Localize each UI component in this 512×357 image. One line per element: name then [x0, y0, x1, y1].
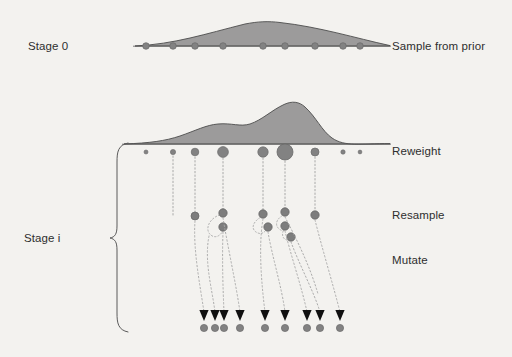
particle	[191, 148, 199, 156]
particle	[277, 144, 293, 160]
particle	[220, 324, 227, 331]
particle	[218, 147, 229, 158]
particle	[200, 324, 207, 331]
posterior-density-curve	[122, 102, 391, 144]
particle	[258, 147, 268, 157]
particle	[261, 324, 268, 331]
particle	[192, 43, 199, 50]
particle	[316, 324, 323, 331]
arrowhead-icon	[219, 310, 228, 321]
particle	[303, 324, 310, 331]
particle	[219, 223, 227, 231]
stage-0-label: Stage 0	[28, 40, 68, 52]
particle	[236, 324, 243, 331]
arrowhead-icon	[280, 310, 289, 321]
arrowhead-icon	[302, 310, 311, 321]
reweight-label: Reweight	[392, 145, 441, 157]
stage-i-label: Stage i	[24, 232, 61, 244]
particle	[281, 324, 288, 331]
particle	[357, 43, 364, 50]
particle	[170, 43, 177, 50]
particle	[264, 223, 272, 231]
particle	[219, 209, 227, 217]
particle	[312, 43, 319, 50]
arrowhead-icon	[315, 310, 324, 321]
reweight-particle-row	[144, 144, 362, 160]
particle	[311, 211, 319, 219]
stage-i-brace	[110, 143, 128, 332]
particle	[336, 324, 343, 331]
particle	[282, 43, 289, 50]
particle	[260, 43, 267, 50]
particle	[144, 150, 148, 154]
arrowhead-icon	[199, 310, 208, 321]
resample-label: Resample	[392, 209, 445, 221]
particle	[340, 43, 347, 50]
arrowhead-icon	[335, 310, 344, 321]
sample-from-prior-label: Sample from prior	[392, 40, 485, 52]
particle	[220, 43, 227, 50]
mutate-arrowheads	[199, 310, 344, 321]
reweight-to-resample-connectors	[173, 156, 315, 216]
mutate-label: Mutate	[392, 254, 428, 266]
particle	[358, 150, 362, 154]
smc-diagram	[0, 0, 512, 357]
particle	[281, 208, 289, 216]
particle	[341, 150, 345, 154]
arrowhead-icon	[260, 310, 269, 321]
arrowhead-icon	[210, 310, 219, 321]
particle	[191, 212, 199, 220]
mutate-particle-row	[200, 324, 343, 331]
particle	[143, 43, 150, 50]
particle	[211, 324, 218, 331]
particle	[259, 210, 267, 218]
particle	[311, 148, 319, 156]
particle	[170, 149, 175, 154]
arrowhead-icon	[235, 310, 244, 321]
resample-particle-row	[191, 208, 319, 241]
